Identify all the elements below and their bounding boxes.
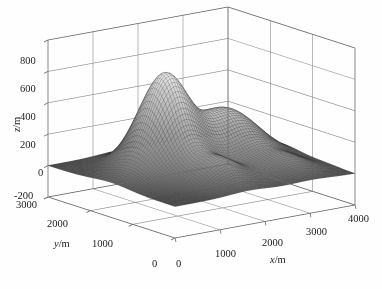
y-axis-unit: /m [59,238,70,249]
x-axis-tick-label-4: 4000 [348,214,369,225]
figure-3d-surface-plot: 8006004002000-20030002000100000100020003… [0,0,382,289]
x-axis-title: x/m [270,255,286,266]
y-axis-tick-label-2: 1000 [92,239,113,250]
y-axis-tick-label-1: 2000 [47,219,68,230]
z-axis-title: z/m [12,117,23,132]
z-axis-tick-label-1: 600 [20,84,36,95]
x-axis-unit: /m [275,254,286,265]
y-axis-tick-label-3: 0 [152,259,157,270]
y-axis-title: y/m [54,239,70,250]
z-axis-var: z [11,128,22,132]
x-axis-tick-label-2: 2000 [262,238,283,249]
z-axis-unit: /m [11,117,22,128]
z-axis-tick-label-3: 200 [20,140,36,151]
x-axis-tick-label-3: 3000 [306,227,327,238]
x-axis-tick-label-1: 1000 [215,249,236,260]
z-axis-tick-label-4: 0 [38,168,43,179]
x-axis-tick-label-0: 0 [176,259,181,270]
y-axis-tick-label-0: 3000 [16,200,37,211]
z-axis-tick-label-0: 800 [20,56,36,67]
